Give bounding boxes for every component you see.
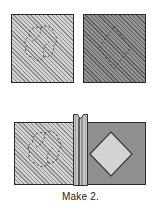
figure-caption: Make 2. [0,191,161,202]
center-seam-allowance [73,114,88,186]
joined-unit-left-half [15,123,77,184]
figure-sheet: Make 2. [0,0,161,213]
blob-placement-marking-icon [12,15,73,82]
diamond-placement-marking-icon [84,15,145,82]
blob-placement-marking-icon [15,123,77,184]
seam-allowance-shape-icon [73,114,88,186]
joined-two-square-unit [14,122,146,185]
top-right-dark-hatched-square [83,14,146,83]
top-left-light-hatched-square [11,14,74,83]
